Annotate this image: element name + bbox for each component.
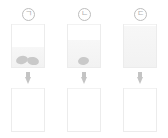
bottom-beaker-2 bbox=[67, 88, 101, 132]
down-arrow-3 bbox=[112, 71, 168, 85]
column-label-wrap-1: ㄱ bbox=[0, 6, 56, 22]
down-arrow-2 bbox=[56, 71, 112, 85]
down-arrow-icon bbox=[137, 72, 143, 84]
bean-object bbox=[26, 56, 39, 66]
experiment-diagram: ㄱ ㄴ bbox=[0, 0, 168, 138]
beaker-rim bbox=[12, 88, 44, 89]
column-label-wrap-2: ㄴ bbox=[56, 6, 112, 22]
arrow-head bbox=[81, 77, 87, 84]
beaker-liquid-2 bbox=[68, 40, 100, 67]
circled-giyeok-label: ㄱ bbox=[22, 8, 35, 21]
down-arrow-icon bbox=[25, 72, 31, 84]
top-beaker-1 bbox=[11, 24, 45, 68]
experiment-column-2: ㄴ bbox=[56, 0, 112, 138]
experiment-column-3: ㄷ bbox=[112, 0, 168, 138]
beaker-rim bbox=[124, 88, 156, 89]
bean-object bbox=[77, 56, 89, 65]
bottom-beaker-3 bbox=[123, 88, 157, 132]
down-arrow-icon bbox=[81, 72, 87, 84]
beaker-rim bbox=[68, 88, 100, 89]
beaker-rim bbox=[12, 24, 44, 25]
beaker-liquid-3 bbox=[124, 26, 156, 67]
top-beaker-3 bbox=[123, 24, 157, 68]
down-arrow-1 bbox=[0, 71, 56, 85]
bottom-beaker-1 bbox=[11, 88, 45, 132]
circled-digeut-label: ㄷ bbox=[134, 8, 147, 21]
beaker-liquid-1 bbox=[12, 47, 44, 67]
circled-nieun-label: ㄴ bbox=[78, 8, 91, 21]
top-beaker-2 bbox=[67, 24, 101, 68]
column-label-wrap-3: ㄷ bbox=[112, 6, 168, 22]
arrow-head bbox=[25, 77, 31, 84]
arrow-head bbox=[137, 77, 143, 84]
beaker-rim bbox=[68, 24, 100, 25]
experiment-column-1: ㄱ bbox=[0, 0, 56, 138]
